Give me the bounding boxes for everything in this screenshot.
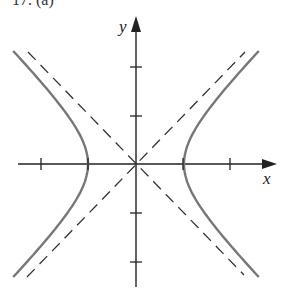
x-axis-arrowhead — [262, 159, 277, 169]
hyperbola-diagram: x y — [0, 0, 292, 298]
y-axis-label: y — [117, 17, 127, 36]
x-axis-label: x — [262, 169, 271, 188]
y-axis-arrowhead — [131, 16, 141, 32]
